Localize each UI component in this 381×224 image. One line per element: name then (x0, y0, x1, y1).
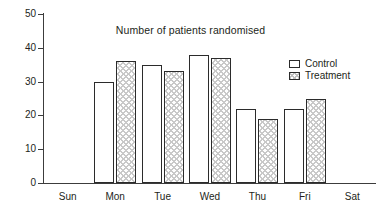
bar-fri-control (284, 109, 304, 183)
bar-tue-control (142, 65, 162, 183)
legend-item-control: Control (289, 58, 350, 70)
legend-label: Control (305, 58, 337, 70)
y-axis-tick (38, 149, 43, 150)
y-axis-tick-label: 10 (10, 144, 36, 154)
legend-item-treatment: Treatment (289, 70, 350, 82)
y-axis-tick (38, 115, 43, 116)
y-axis-tick-label: 0 (10, 178, 36, 188)
x-axis-tick-label: Sat (322, 191, 381, 202)
bar-fri-treatment (306, 99, 326, 184)
legend-swatch-icon (289, 72, 300, 80)
bar-mon-control (94, 82, 114, 183)
y-axis-tick (38, 82, 43, 83)
x-axis-line (43, 183, 376, 184)
y-axis-tick (38, 183, 43, 184)
bar-chart: Number of patients randomised 0102030405… (0, 0, 381, 224)
y-axis-tick (38, 48, 43, 49)
plot-area (44, 14, 376, 183)
bar-mon-treatment (116, 61, 136, 183)
y-axis-tick-label: 40 (10, 43, 36, 53)
bar-wed-treatment (211, 58, 231, 183)
bar-thu-treatment (258, 119, 278, 183)
y-axis-tick-label: 50 (10, 9, 36, 19)
bar-wed-control (189, 55, 209, 183)
bar-tue-treatment (164, 71, 184, 183)
y-axis-tick-label: 20 (10, 110, 36, 120)
y-axis-tick (38, 14, 43, 15)
bar-thu-control (236, 109, 256, 183)
chart-legend: ControlTreatment (289, 58, 350, 82)
legend-label: Treatment (305, 70, 350, 82)
y-axis-tick-label: 30 (10, 77, 36, 87)
legend-swatch-icon (289, 60, 300, 68)
